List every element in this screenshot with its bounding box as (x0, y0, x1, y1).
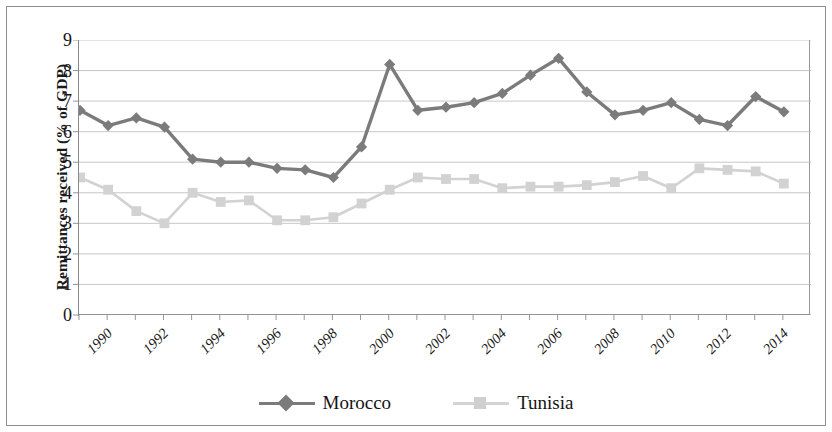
legend-item-morocco[interactable]: Morocco (259, 392, 392, 414)
x-axis-ticks (78, 315, 810, 323)
x-tick-label-1998: 1998 (309, 325, 342, 358)
x-tick-label-2008: 2008 (590, 325, 623, 358)
x-tick-label-2004: 2004 (478, 325, 511, 358)
x-tick-label-2000: 2000 (365, 325, 398, 358)
x-tick-label-1992: 1992 (140, 325, 173, 358)
legend-label-morocco: Morocco (323, 392, 392, 414)
square-marker-icon (474, 397, 486, 409)
chart-figure: Remittances received (% of GDP) 01234567… (0, 0, 832, 432)
legend-item-tunisia[interactable]: Tunisia (453, 392, 573, 414)
x-tick-label-2010: 2010 (647, 325, 680, 358)
x-tick-label-2014: 2014 (759, 325, 792, 358)
diamond-marker-icon (277, 395, 294, 412)
legend-swatch-tunisia (453, 396, 509, 410)
y-axis-line (78, 40, 79, 316)
x-tick-label-2006: 2006 (534, 325, 567, 358)
x-axis-tick-labels: 1990199219941996199820002002200420062008… (0, 0, 832, 432)
x-tick-label-2012: 2012 (703, 325, 736, 358)
x-tick-label-1996: 1996 (252, 325, 285, 358)
chart-legend: Morocco Tunisia (0, 392, 832, 414)
x-tick-label-2002: 2002 (421, 325, 454, 358)
x-tick-label-1990: 1990 (83, 325, 116, 358)
legend-swatch-morocco (259, 396, 315, 410)
legend-label-tunisia: Tunisia (517, 392, 573, 414)
x-tick-label-1994: 1994 (196, 325, 229, 358)
